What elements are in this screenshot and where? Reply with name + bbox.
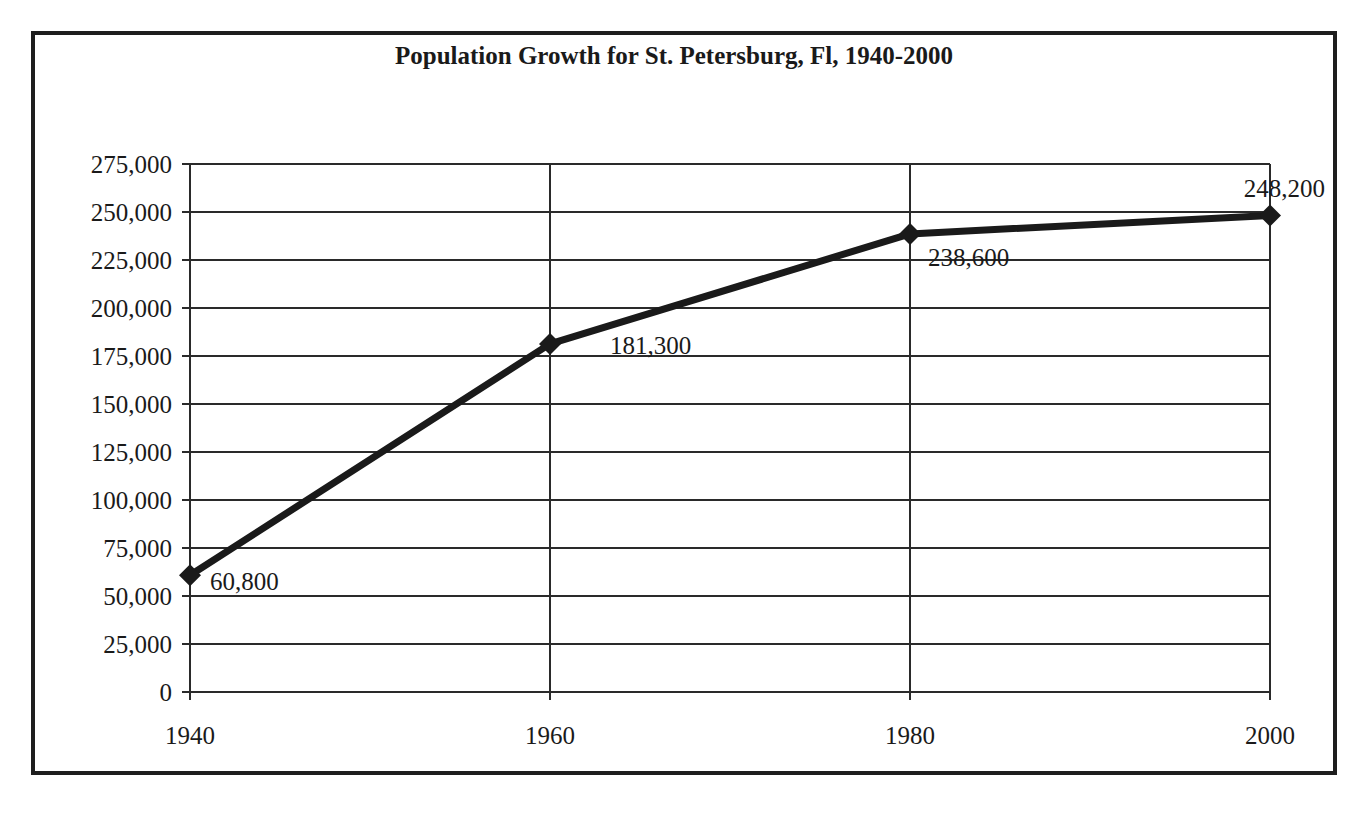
diamond-marker-icon: [1259, 204, 1281, 226]
y-tick-label: 250,000: [91, 199, 172, 226]
data-label: 248,200: [1244, 175, 1325, 202]
y-tick-label: 125,000: [91, 439, 172, 466]
y-tick-label: 0: [160, 679, 173, 706]
x-tick-label: 2000: [1245, 722, 1295, 749]
y-tick-label: 225,000: [91, 247, 172, 274]
y-tick-label: 275,000: [91, 151, 172, 178]
x-axis-labels: 1940196019802000: [165, 722, 1295, 749]
data-label: 181,300: [610, 332, 691, 359]
data-label: 60,800: [210, 568, 279, 595]
data-series: [179, 204, 1281, 586]
line-chart-plot: 025,00050,00075,000100,000125,000150,000…: [0, 0, 1348, 813]
y-tick-label: 150,000: [91, 391, 172, 418]
y-tick-label: 50,000: [103, 583, 172, 610]
y-tick-label: 25,000: [103, 631, 172, 658]
y-tick-label: 100,000: [91, 487, 172, 514]
x-tick-label: 1940: [165, 722, 215, 749]
data-label: 238,600: [928, 244, 1009, 271]
gridlines: [182, 164, 1270, 700]
y-tick-label: 175,000: [91, 343, 172, 370]
x-tick-label: 1960: [525, 722, 575, 749]
y-tick-label: 75,000: [103, 535, 172, 562]
x-tick-label: 1980: [885, 722, 935, 749]
diamond-marker-icon: [899, 223, 921, 245]
y-tick-label: 200,000: [91, 295, 172, 322]
data-labels: 60,800181,300238,600248,200: [210, 175, 1325, 595]
series-line: [190, 215, 1270, 575]
y-axis-labels: 025,00050,00075,000100,000125,000150,000…: [91, 151, 172, 706]
